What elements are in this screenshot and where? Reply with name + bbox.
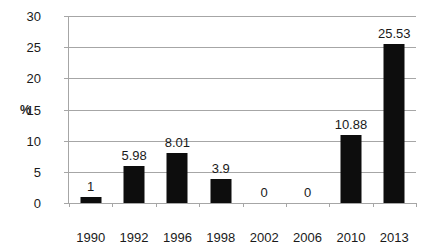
x-axis-tick-2010 bbox=[373, 203, 374, 207]
bar-value-label-2006: 0 bbox=[304, 186, 311, 199]
x-axis-tick-2002 bbox=[286, 203, 287, 207]
x-axis-label-2006: 2006 bbox=[293, 231, 322, 244]
bar-group-2002: 0 bbox=[243, 16, 286, 203]
x-axis-tick-origin bbox=[69, 203, 70, 207]
bar-group-2006: 0 bbox=[286, 16, 329, 203]
x-axis-tick-2006 bbox=[329, 203, 330, 207]
bar-2013[interactable] bbox=[384, 44, 405, 203]
y-axis-label-15: 15 bbox=[27, 104, 41, 117]
bar-group-1998: 3.9 bbox=[199, 16, 242, 203]
bar-group-1990: 1 bbox=[69, 16, 112, 203]
x-axis-tick-1998 bbox=[243, 203, 244, 207]
x-axis-tick-1996 bbox=[199, 203, 200, 207]
bar-1990[interactable] bbox=[80, 197, 101, 203]
y-axis-label-20: 20 bbox=[27, 72, 41, 85]
bar-group-2010: 10.88 bbox=[329, 16, 372, 203]
bar-value-label-1996: 8.01 bbox=[165, 136, 190, 149]
x-axis-tick-1990 bbox=[112, 203, 113, 207]
y-axis-label-10: 10 bbox=[27, 135, 41, 148]
bar-group-1992: 5.98 bbox=[112, 16, 155, 203]
y-axis-label-5: 5 bbox=[34, 166, 41, 179]
x-axis-label-1990: 1990 bbox=[76, 231, 105, 244]
bar-1998[interactable] bbox=[210, 179, 231, 203]
bar-value-label-2013: 25.53 bbox=[378, 27, 411, 40]
x-axis-label-2010: 2010 bbox=[336, 231, 365, 244]
x-axis-label-2013: 2013 bbox=[380, 231, 409, 244]
x-axis-tick-2013 bbox=[416, 203, 417, 207]
x-axis-label-2002: 2002 bbox=[250, 231, 279, 244]
bar-1996[interactable] bbox=[167, 153, 188, 203]
bar-2010[interactable] bbox=[340, 135, 361, 203]
bar-1992[interactable] bbox=[124, 166, 145, 203]
bar-value-label-1998: 3.9 bbox=[212, 162, 230, 175]
bar-value-label-2010: 10.88 bbox=[335, 118, 368, 131]
y-axis-label-30: 30 bbox=[27, 10, 41, 23]
y-axis-label-0: 0 bbox=[34, 197, 41, 210]
bar-group-2013: 25.53 bbox=[373, 16, 416, 203]
x-axis-label-1992: 1992 bbox=[120, 231, 149, 244]
bar-value-label-2002: 0 bbox=[261, 186, 268, 199]
bar-value-label-1990: 1 bbox=[87, 180, 94, 193]
x-axis-label-1996: 1996 bbox=[163, 231, 192, 244]
bar-value-label-1992: 5.98 bbox=[121, 149, 146, 162]
plot-area: 051015202530119905.9819928.0119963.91998… bbox=[68, 16, 415, 203]
bar-group-1996: 8.01 bbox=[156, 16, 199, 203]
x-axis-tick-1992 bbox=[156, 203, 157, 207]
x-axis-label-1998: 1998 bbox=[206, 231, 235, 244]
y-axis-label-25: 25 bbox=[27, 41, 41, 54]
